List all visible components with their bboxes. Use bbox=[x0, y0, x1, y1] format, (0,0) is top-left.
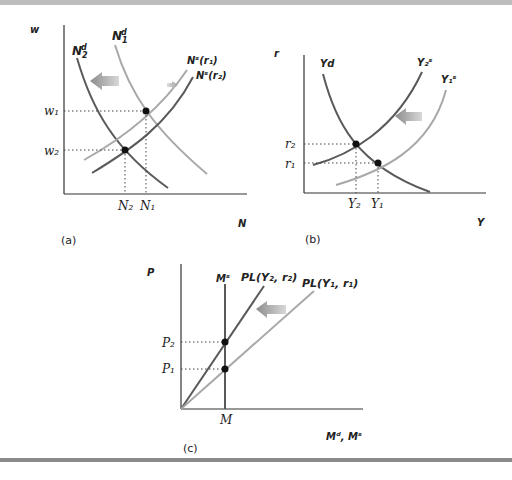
panel-c: P Mᵈ, Mˢ (c) Mˢ PL(Y₂, r₂) PL(Y₁, r₁) P₂… bbox=[147, 264, 363, 455]
curve-y1s bbox=[336, 90, 446, 185]
a-tick-n2: N₂ bbox=[117, 199, 134, 213]
label-ns-r1: Nˢ(r₁) bbox=[187, 55, 218, 66]
a-supply-shift-arrow bbox=[167, 81, 178, 89]
c-tick-p1: P₁ bbox=[161, 362, 175, 376]
c-equilibrium-2 bbox=[222, 339, 229, 346]
b-tick-y1: Y₁ bbox=[371, 197, 384, 211]
b-tick-r2: r₂ bbox=[285, 137, 296, 151]
label-n1d: dN1 bbox=[112, 28, 128, 45]
label-n2d: dN2 bbox=[72, 43, 88, 60]
panel-b: r Y (b) Yd Y₂ˢ Y₁ˢ r₂ r₁ Y₂ Y₁ bbox=[274, 48, 486, 246]
a-equilibrium-2 bbox=[122, 147, 129, 154]
label-ms: Mˢ bbox=[216, 273, 230, 284]
c-y-label: P bbox=[147, 267, 155, 278]
a-y-label: w bbox=[30, 24, 40, 35]
a-equilibrium-1 bbox=[143, 108, 150, 115]
a-panel-label: (a) bbox=[61, 234, 76, 247]
c-panel-label: (c) bbox=[183, 442, 198, 455]
c-tick-m: M bbox=[219, 413, 233, 427]
b-equilibrium-2 bbox=[353, 141, 360, 148]
label-y1s: Y₁ˢ bbox=[441, 74, 457, 85]
panel-a: w N (a) dN2 dN1 Nˢ(r₁) Nˢ(r₂) w₁ w₂ N₂ N… bbox=[30, 24, 247, 247]
b-tick-r1: r₁ bbox=[285, 157, 296, 171]
c-x-label: Mᵈ, Mˢ bbox=[326, 431, 362, 442]
label-yd: Yd bbox=[320, 58, 335, 69]
curve-n2d bbox=[77, 58, 168, 188]
b-equilibrium-1 bbox=[375, 160, 382, 167]
b-tick-y2: Y₂ bbox=[348, 197, 361, 211]
c-tick-p2: P₂ bbox=[161, 336, 175, 350]
a-x-label: N bbox=[238, 218, 247, 229]
a-demand-shift-arrow bbox=[90, 72, 119, 90]
c-pl-shift-arrow bbox=[256, 301, 286, 318]
label-pl-y2-r2: PL(Y₂, r₂) bbox=[241, 271, 297, 284]
bottom-border bbox=[0, 458, 512, 462]
a-tick-n1: N₁ bbox=[139, 199, 155, 213]
c-equilibrium-1 bbox=[222, 366, 229, 373]
label-y2s: Y₂ˢ bbox=[417, 57, 433, 68]
figure: w N (a) dN2 dN1 Nˢ(r₁) Nˢ(r₂) w₁ w₂ N₂ N… bbox=[0, 0, 512, 480]
b-y-label: r bbox=[274, 48, 280, 59]
label-pl-y1-r1: PL(Y₁, r₁) bbox=[302, 277, 358, 290]
b-panel-label: (b) bbox=[305, 233, 321, 246]
a-tick-w1: w₁ bbox=[44, 104, 59, 118]
b-x-label: Y bbox=[477, 217, 486, 228]
a-tick-w2: w₂ bbox=[44, 144, 59, 158]
label-ns-r2: Nˢ(r₂) bbox=[196, 70, 227, 81]
